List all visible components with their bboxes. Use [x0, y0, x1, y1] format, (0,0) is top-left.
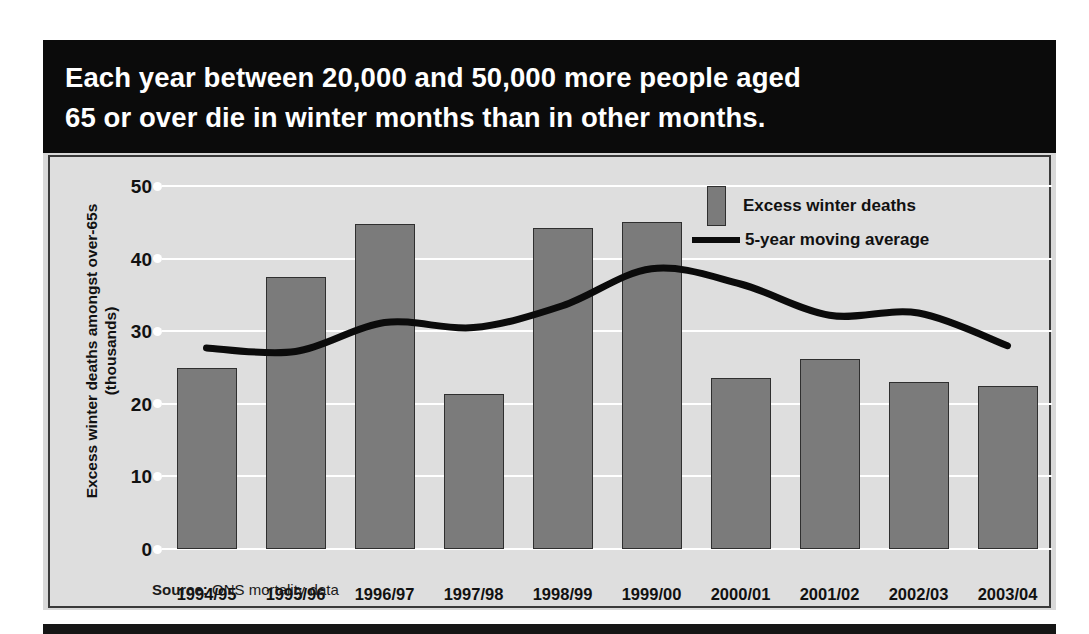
- bar: [444, 394, 504, 549]
- bottom-strip: [43, 624, 1056, 634]
- moving-average-path: [207, 268, 1008, 353]
- y-tick-label: 30: [106, 322, 152, 341]
- headline-line-1: Each year between 20,000 and 50,000 more…: [65, 58, 1034, 98]
- y-tick-label: 50: [106, 177, 152, 196]
- headline-banner: Each year between 20,000 and 50,000 more…: [43, 40, 1056, 153]
- y-tick-dot: [153, 182, 162, 191]
- y-tick-dot: [153, 545, 162, 554]
- bar: [711, 378, 771, 549]
- x-tick-label: 1999/00: [607, 585, 696, 603]
- legend-bars-label: Excess winter deaths: [743, 197, 916, 215]
- source-text: ONS mortality data: [208, 581, 339, 598]
- source-note: Source: ONS mortality data: [152, 581, 339, 598]
- bar: [355, 224, 415, 549]
- gridline: [162, 185, 1052, 187]
- legend-item-bars: Excess winter deaths: [695, 189, 1025, 223]
- gridline: [162, 258, 1052, 260]
- bar: [177, 368, 237, 550]
- bar: [978, 386, 1038, 549]
- bar: [266, 277, 326, 549]
- x-tick-label: 1998/99: [518, 585, 607, 603]
- poster-panel: Each year between 20,000 and 50,000 more…: [43, 40, 1056, 610]
- y-tick-dot: [153, 254, 162, 263]
- bar: [889, 382, 949, 549]
- bar: [622, 222, 682, 549]
- y-tick-dot: [153, 327, 162, 336]
- bar: [800, 359, 860, 549]
- figure-root: Each year between 20,000 and 50,000 more…: [0, 0, 1089, 634]
- x-tick-label: 2003/04: [963, 585, 1052, 603]
- x-tick-label: 2001/02: [785, 585, 874, 603]
- y-tick-dot: [153, 472, 162, 481]
- legend-line-label: 5-year moving average: [745, 231, 929, 249]
- bar: [533, 228, 593, 549]
- x-tick-label: 2002/03: [874, 585, 963, 603]
- chart-panel: Excess winter deaths amongst over-65s (t…: [48, 155, 1051, 608]
- x-tick-label: 2000/01: [696, 585, 785, 603]
- source-prefix: Source:: [152, 581, 208, 598]
- y-axis-tick-labels: 01020304050: [90, 186, 152, 549]
- legend-bar-swatch-icon: [707, 186, 726, 226]
- y-tick-label: 0: [106, 540, 152, 559]
- y-tick-label: 40: [106, 250, 152, 269]
- y-tick-label: 20: [106, 395, 152, 414]
- legend-item-line: 5-year moving average: [695, 223, 1025, 257]
- y-tick-dot: [153, 399, 162, 408]
- y-tick-label: 10: [106, 467, 152, 486]
- headline-line-2: 65 or over die in winter months than in …: [65, 98, 1034, 138]
- x-tick-label: 1997/98: [429, 585, 518, 603]
- chart-legend: Excess winter deaths 5-year moving avera…: [695, 189, 1025, 257]
- x-tick-label: 1996/97: [340, 585, 429, 603]
- legend-line-swatch-icon: [692, 237, 740, 243]
